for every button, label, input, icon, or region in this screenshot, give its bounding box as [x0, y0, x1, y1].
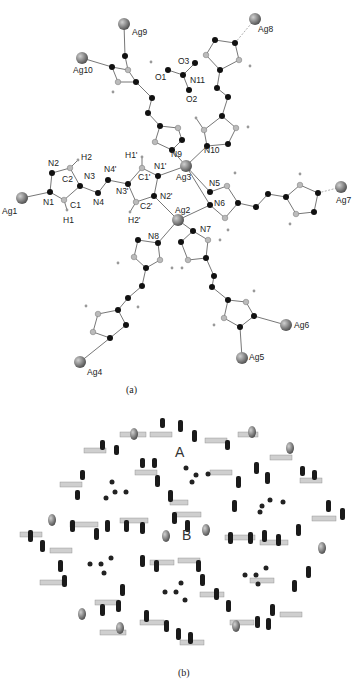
label-h1: H1 [63, 215, 74, 225]
figure-canvas: Ag1 Ag2 Ag3 Ag4 Ag5 Ag6 Ag7 Ag8 Ag9 Ag10… [0, 0, 363, 685]
label-c1p: C1' [138, 172, 151, 182]
label-ag3: Ag3 [176, 172, 191, 182]
label-o1: O1 [155, 72, 167, 82]
label-n7: N7 [200, 224, 211, 234]
caption-b: (b) [178, 667, 190, 679]
label-ag6: Ag6 [294, 320, 309, 330]
label-o2: O2 [186, 94, 198, 104]
label-o3: O3 [178, 56, 190, 66]
label-h2: H2 [81, 152, 92, 162]
label-n1p: N1' [154, 161, 167, 171]
label-n3p: N3' [116, 186, 129, 196]
atom-ag10 [76, 52, 88, 64]
label-n6: N6 [214, 198, 225, 208]
label-ag4: Ag4 [87, 367, 102, 377]
label-n2p: N2' [160, 191, 173, 201]
label-c1: C1 [70, 200, 81, 210]
label-ag8: Ag8 [258, 24, 273, 34]
atom-ag5 [236, 352, 248, 364]
label-n8: N8 [148, 231, 159, 241]
panel-b-framework: A B (b) [20, 418, 345, 679]
label-n2: N2 [48, 158, 59, 168]
label-n5: N5 [209, 178, 220, 188]
caption-a: (a) [126, 384, 137, 396]
label-n9: N9 [171, 149, 182, 159]
label-n3: N3 [84, 171, 95, 181]
label-ag9: Ag9 [132, 27, 147, 37]
label-n1: N1 [43, 197, 54, 207]
label-n10: N10 [204, 145, 220, 155]
atom-ag6 [280, 319, 292, 331]
channel-label-b: B [182, 527, 191, 543]
atom-labels: Ag1 Ag2 Ag3 Ag4 Ag5 Ag6 Ag7 Ag8 Ag9 Ag10… [2, 24, 351, 377]
label-ag10: Ag10 [73, 65, 93, 75]
label-h2p: H2' [128, 215, 141, 225]
atom-ag1 [16, 192, 28, 204]
atom-ag2 [172, 214, 184, 226]
label-n11: N11 [190, 75, 205, 85]
silver-atoms [16, 13, 347, 368]
label-c2p: C2' [140, 201, 153, 211]
label-ag1: Ag1 [2, 206, 17, 216]
bonds [22, 19, 341, 362]
label-ag2: Ag2 [175, 205, 190, 215]
panel-a-structure: Ag1 Ag2 Ag3 Ag4 Ag5 Ag6 Ag7 Ag8 Ag9 Ag10… [2, 13, 351, 396]
atom-ag9 [118, 18, 130, 30]
atom-ag4 [74, 356, 86, 368]
label-c2: C2 [62, 174, 73, 184]
channel-label-a: A [175, 444, 185, 460]
label-ag7: Ag7 [336, 195, 351, 205]
label-h1p: H1' [125, 150, 138, 160]
label-ag5: Ag5 [249, 352, 264, 362]
atom-ag7 [335, 181, 347, 193]
label-n4: N4 [93, 197, 104, 207]
label-n4p: N4' [104, 164, 117, 174]
atom-ag3 [180, 160, 192, 172]
